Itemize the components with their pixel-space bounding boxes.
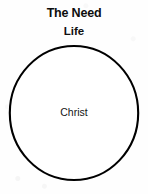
- page-title: The Need: [0, 6, 148, 20]
- diagram-subtitle: Life: [0, 24, 148, 38]
- circle-label: Christ: [0, 106, 148, 119]
- diagram-canvas: The Need Life Christ: [0, 0, 148, 194]
